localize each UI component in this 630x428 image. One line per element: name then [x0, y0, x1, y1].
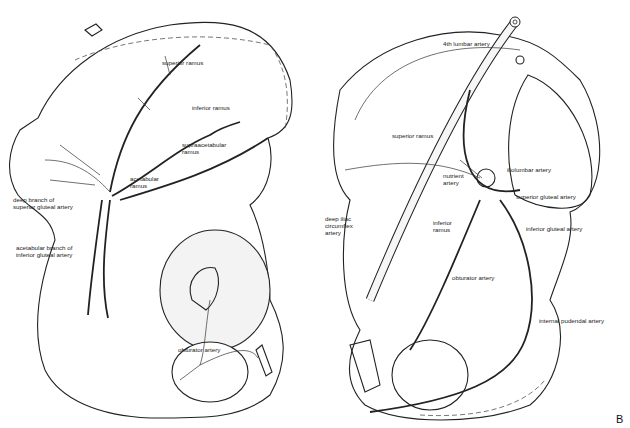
label-deep-branch-superior-gluteal: deep branch of superior gluteal artery	[13, 196, 73, 210]
label-nutrient-artery: nutrient artery	[443, 172, 464, 186]
label-superior-ramus-right: superior ramus	[392, 132, 433, 139]
label-inferior-ramus-right: inferior ramus	[433, 219, 452, 233]
label-acetabular-branch-inferior-gluteal: acetabular branch of inferior gluteal ar…	[16, 244, 72, 258]
label-iliolumbar-artery: iliolumbar artery	[507, 166, 551, 173]
label-inferior-gluteal-artery: inferior gluteal artery	[526, 225, 582, 232]
label-superior-ramus-left: superior ramus	[162, 59, 203, 66]
label-inferior-ramus-left: inferior ramus	[192, 104, 230, 111]
label-internal-pudendal-artery: internal pudendal artery	[539, 317, 604, 324]
label-obturator-artery-left: obturator artery	[178, 346, 220, 353]
label-deep-iliac-circumflex-artery: deep iliac circumflex artery	[325, 215, 353, 236]
label-supraacetabular-ramus: supraacetabular ramus	[182, 141, 226, 155]
figure-letter: B	[616, 413, 623, 425]
label-superior-gluteal-artery: superior gluteal artery	[516, 193, 576, 200]
left-hip-bone	[10, 22, 293, 418]
label-4th-lumbar-artery: 4th lumbar artery	[443, 40, 490, 47]
pelvis-illustration	[0, 0, 630, 428]
label-obturator-artery-right: obturator artery	[452, 274, 494, 281]
label-acetabular-ramus: acetabular ramus	[130, 175, 159, 189]
